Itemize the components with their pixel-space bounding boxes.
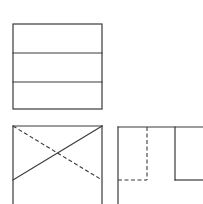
front-view: [13, 126, 102, 204]
orthographic-diagram: [0, 0, 203, 204]
top-view: [13, 24, 102, 109]
top-view-outline: [13, 24, 102, 109]
side-view: [118, 127, 203, 204]
